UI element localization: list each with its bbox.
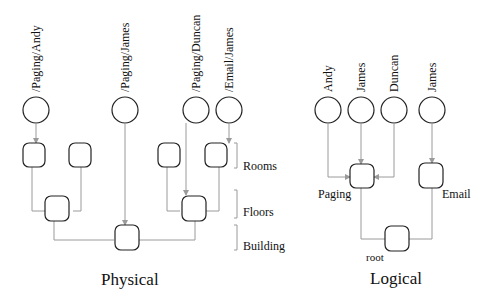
root-node [385, 226, 409, 251]
subscriber-node [315, 97, 341, 123]
physical-subscriber-label: /Paging/Duncan [189, 15, 203, 92]
subscriber-node [348, 97, 374, 123]
logical-diagram: Andy James Duncan James Paging Email roo… [315, 55, 471, 288]
logical-subscriber-label: James [354, 62, 368, 92]
subscriber-node [419, 97, 445, 123]
level-brackets [234, 143, 237, 250]
physical-subscriber-label: /Email/James [222, 27, 236, 92]
logical-edges [328, 123, 432, 239]
room-node [205, 143, 227, 167]
level-label-floors: Floors [243, 205, 274, 219]
paging-label: Paging [318, 187, 351, 201]
building-node [115, 225, 139, 250]
paging-node [350, 164, 374, 188]
physical-subscriber-label: /Paging/James [118, 22, 132, 92]
room-node [158, 143, 180, 167]
room-node [69, 143, 91, 167]
root-label: root [366, 251, 384, 263]
room-node [23, 143, 45, 167]
physical-edges [32, 123, 229, 240]
level-label-building: Building [243, 239, 285, 253]
physical-diagram: /Paging/Andy /Paging/James /Paging/Dunca… [23, 15, 285, 289]
logical-title: Logical [370, 269, 422, 288]
physical-title: Physical [101, 270, 159, 289]
subscriber-node [216, 97, 242, 123]
email-label: Email [442, 187, 471, 201]
logical-subscriber-label: Andy [321, 65, 335, 92]
subscriber-node [112, 97, 138, 123]
email-node [419, 163, 443, 188]
subscriber-node [381, 97, 407, 123]
floor-node [182, 196, 206, 221]
subscriber-node [183, 97, 209, 123]
diagram-canvas: /Paging/Andy /Paging/James /Paging/Dunca… [0, 0, 487, 306]
logical-subscriber-label: Duncan [387, 55, 401, 92]
subscriber-node [23, 97, 49, 123]
level-label-rooms: Rooms [243, 159, 277, 173]
physical-subscriber-label: /Paging/Andy [29, 25, 43, 92]
floor-node [45, 196, 69, 221]
logical-subscriber-label: James [425, 62, 439, 92]
